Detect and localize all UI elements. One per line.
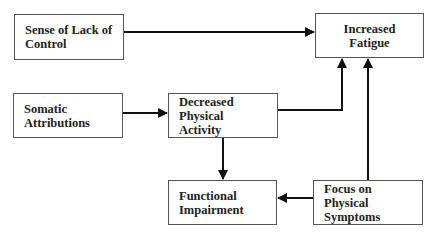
node-label-line2: Control: [25, 37, 112, 51]
node-label-line1: Sense of Lack of: [25, 23, 112, 37]
node-label-line1: Functional: [179, 189, 244, 203]
node-label-line2: Attributions: [24, 116, 90, 130]
node-label-line2: Impairment: [179, 203, 244, 217]
node-somatic-attributions: Somatic Attributions: [13, 93, 123, 138]
node-increased-fatigue: Increased Fatigue: [315, 13, 424, 58]
node-decreased-physical-activity: Decreased Physical Activity: [168, 93, 278, 138]
edge-decreased-activity-to-fatigue: [278, 59, 342, 110]
node-label-line2: Symptoms: [324, 210, 412, 224]
node-functional-impairment: Functional Impairment: [168, 180, 277, 225]
node-focus-on-physical-symptoms: Focus on Physical Symptoms: [313, 180, 423, 225]
node-label-line1: Somatic: [24, 102, 90, 116]
node-lack-of-control: Sense of Lack of Control: [14, 14, 124, 60]
node-label-line1: Decreased: [179, 95, 267, 109]
node-label-line2: Physical Activity: [179, 109, 267, 137]
node-label-line1: Focus on Physical: [324, 182, 412, 210]
node-label-line1: Increased Fatigue: [326, 22, 413, 50]
